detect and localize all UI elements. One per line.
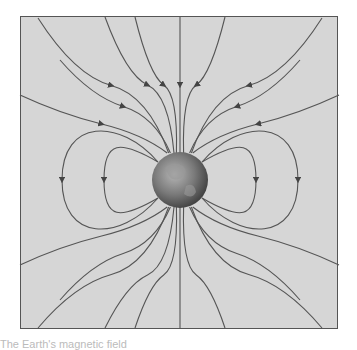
field-line-bottom xyxy=(105,207,174,328)
field-line-top xyxy=(135,17,177,153)
field-line-top xyxy=(193,95,339,153)
field-line-bottom xyxy=(135,207,177,328)
figure-caption: The Earth's magnetic field xyxy=(0,338,127,350)
field-loop-right xyxy=(202,131,298,229)
field-line-top xyxy=(191,18,322,153)
field-loop-left xyxy=(104,147,158,212)
field-line-bottom xyxy=(183,207,225,328)
field-line-top xyxy=(183,17,225,153)
field-line-bottom xyxy=(191,207,322,328)
field-line-bottom xyxy=(38,207,169,328)
field-line-bottom xyxy=(193,207,339,265)
field-loop-right xyxy=(202,147,256,212)
earth-globe xyxy=(152,152,208,208)
field-line-bottom xyxy=(20,207,167,265)
field-loop-left xyxy=(62,131,158,229)
field-line-top xyxy=(20,95,167,153)
